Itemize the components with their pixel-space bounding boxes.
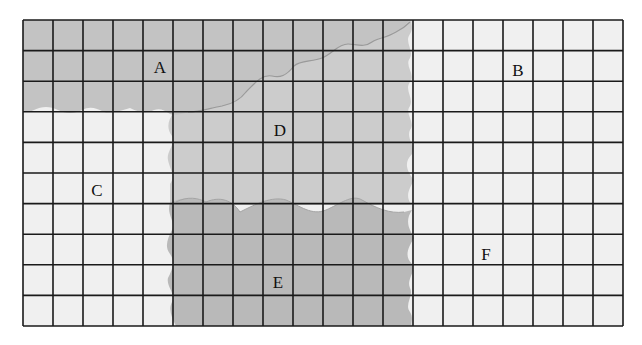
region-label-b: B [512, 61, 523, 80]
region-label-d: D [274, 121, 286, 140]
region-label-c: C [91, 181, 102, 200]
grid-region-diagram: A B C D E F [0, 0, 642, 345]
region-label-f: F [481, 245, 490, 264]
region-label-a: A [154, 58, 167, 77]
grid-lines [23, 20, 623, 326]
region-label-e: E [273, 273, 283, 292]
region-e-shape [167, 198, 414, 326]
